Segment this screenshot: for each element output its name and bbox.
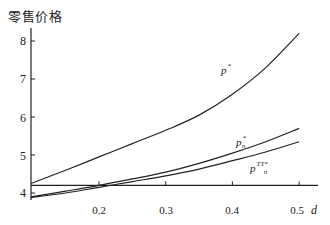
x-axis-title: d xyxy=(311,203,317,218)
y-tick-label: 8 xyxy=(12,34,26,49)
x-tick-label: 0.3 xyxy=(159,204,173,216)
x-tick-label: 0.5 xyxy=(290,204,304,216)
line-chart xyxy=(0,0,330,225)
y-axis-title: 零售价格 xyxy=(8,6,62,25)
x-tick-label: 0.2 xyxy=(92,204,106,216)
series-label-p-star-n: p*n xyxy=(236,134,246,150)
y-tick-label: 4 xyxy=(12,186,26,201)
x-tick-label: 0.4 xyxy=(225,204,239,216)
y-tick-label: 5 xyxy=(12,149,26,164)
plot-lines xyxy=(31,33,318,197)
series-label-p-star: p* xyxy=(221,62,231,76)
y-tick-label: 6 xyxy=(12,111,26,126)
series-label-p-tt-star-n: pTT*n xyxy=(250,160,267,176)
y-tick-label: 7 xyxy=(12,72,26,87)
